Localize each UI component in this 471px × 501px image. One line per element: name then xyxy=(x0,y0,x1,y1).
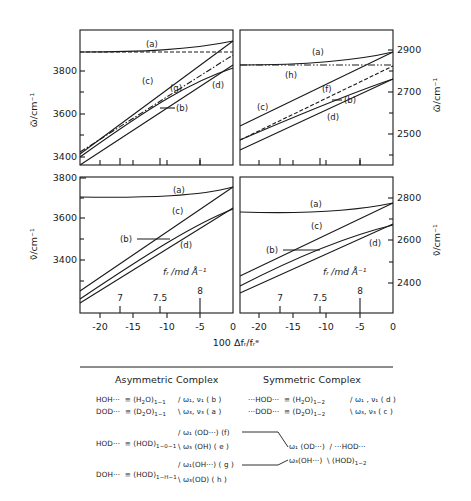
xtick-left-0: 0 xyxy=(230,321,236,332)
xtick-left-m15: -15 xyxy=(125,321,141,332)
curve-label-b-br: (b) xyxy=(266,245,278,255)
curve-label-c-bl: (c) xyxy=(172,206,183,216)
curve-label-b: (b) xyxy=(176,103,188,113)
ytick-br-2600: 2600 xyxy=(397,234,421,245)
xtick-left-m5: -5 xyxy=(195,321,204,332)
curve-label-c-tr: (c) xyxy=(257,102,268,112)
ytick-tr-2900: 2900 xyxy=(397,44,421,55)
ytick-tr-2700: 2700 xyxy=(397,86,421,97)
curve-label-h-tr: (h) xyxy=(285,70,297,80)
curve-label-b-tr: (b) xyxy=(344,95,356,105)
curve-label-a-tr: (a) xyxy=(312,47,324,57)
sec-tick-left-7: 7 xyxy=(117,293,123,303)
ytick-tl-3400: 3400 xyxy=(53,151,77,162)
curve-label-d-bl: (d) xyxy=(180,240,192,250)
curve-label-a: (a) xyxy=(146,39,158,49)
xtick-right-0: 0 xyxy=(390,321,396,332)
curve-label-c: (c) xyxy=(142,76,153,86)
xtick-right-m20: -20 xyxy=(251,321,267,332)
curve-label-f-tr: (f) xyxy=(322,84,332,94)
sec-tick-left-7-5: 7.5 xyxy=(153,293,167,303)
xtick-right-m5: -5 xyxy=(355,321,364,332)
sec-tick-right-8: 8 xyxy=(357,286,363,296)
curve-label-a-bl: (a) xyxy=(173,185,185,195)
ytick-bl-3600: 3600 xyxy=(53,212,77,223)
ylabel-bottom-left: ν̃/cm⁻¹ xyxy=(28,228,39,260)
ytick-br-2800: 2800 xyxy=(397,192,421,203)
legend: Asymmetric Complex Symmetric Complex HOH… xyxy=(0,372,471,501)
sec-tick-right-7: 7 xyxy=(277,293,283,303)
curve-label-b-bl: (b) xyxy=(120,234,132,244)
ylabel-bottom-right: ν̃/cm⁻¹ xyxy=(431,224,442,256)
ytick-bl-3400: 3400 xyxy=(53,254,77,265)
ytick-br-2400: 2400 xyxy=(397,277,421,288)
curve-label-g: (g) xyxy=(170,83,182,93)
x-axis-label: 100 Δfᵣ/fᵣᵉ xyxy=(213,337,259,348)
xtick-right-m15: -15 xyxy=(285,321,301,332)
ytick-bl-3800: 3800 xyxy=(53,172,77,183)
curve-label-a-br: (a) xyxy=(310,199,322,209)
curve-label-d-br: (d) xyxy=(369,238,381,248)
sec-axis-label-right: fᵣ /md Å⁻¹ xyxy=(323,266,367,277)
ytick-tl-3800: 3800 xyxy=(53,65,77,76)
xtick-left-m10: -10 xyxy=(159,321,175,332)
ylabel-top-right: ω̃/cm⁻¹ xyxy=(431,78,442,113)
sec-tick-right-7-5: 7.5 xyxy=(313,293,327,303)
xtick-right-m10: -10 xyxy=(318,321,334,332)
sec-tick-left-8: 8 xyxy=(197,286,203,296)
ytick-tr-2500: 2500 xyxy=(397,128,421,139)
curve-label-c-br: (c) xyxy=(311,221,322,231)
figure-plots: 3800 3600 3400 3800 3600 3400 2900 2700 … xyxy=(0,0,471,372)
legend-connector-lines xyxy=(0,372,471,501)
ylabel-top-left: ω̃/cm⁻¹ xyxy=(28,93,39,128)
curve-label-d: (d) xyxy=(212,80,224,90)
xtick-left-m20: -20 xyxy=(92,321,108,332)
sec-axis-label-left: fᵣ /md Å⁻¹ xyxy=(163,266,207,277)
ytick-tl-3600: 3600 xyxy=(53,108,77,119)
curve-label-d-tr: (d) xyxy=(327,112,339,122)
